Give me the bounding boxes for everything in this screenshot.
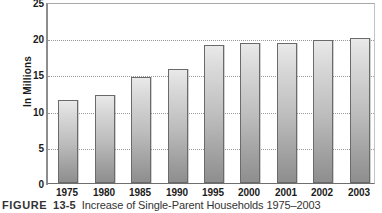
x-axis-tick-2003: 2003 (337, 187, 381, 198)
figure-caption: FIGURE 13-5 Increase of Single-Parent Ho… (2, 199, 382, 211)
bar-1980 (95, 95, 115, 183)
bar-2003 (350, 38, 370, 183)
plot-area (47, 3, 375, 184)
y-axis-tick-labels: 0510152025 (8, 0, 44, 190)
bar-2001 (277, 43, 297, 183)
caption-figure-word: FIGURE (2, 199, 47, 211)
bar-2002 (313, 40, 333, 183)
bar-2000 (240, 43, 260, 183)
caption-figure-number: 13-5 (53, 199, 76, 211)
bar-series (48, 4, 374, 183)
bar-1995 (204, 45, 224, 183)
caption-figure-title: Increase of Single-Parent Households 197… (82, 199, 321, 211)
bar-1975 (58, 100, 78, 183)
y-axis-tick-5: 5 (8, 142, 44, 153)
bar-1990 (168, 69, 188, 183)
bar-1985 (131, 77, 151, 183)
figure-container: In Millions 0510152025 19751980198519901… (0, 0, 382, 213)
y-axis-tick-0: 0 (8, 179, 44, 190)
y-axis-tick-20: 20 (8, 34, 44, 45)
y-axis-tick-15: 15 (8, 70, 44, 81)
y-axis-tick-25: 25 (8, 0, 44, 9)
y-axis-tick-10: 10 (8, 106, 44, 117)
